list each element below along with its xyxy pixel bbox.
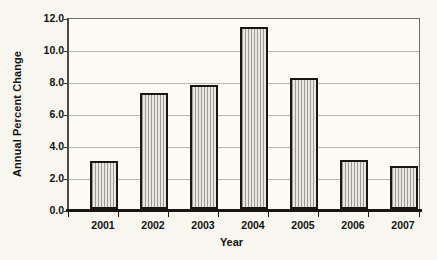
y-tick-label: 0.0 [22, 204, 64, 216]
x-tick-mark [168, 211, 169, 217]
x-tick-label-2004: 2004 [225, 219, 281, 231]
bar-2006 [340, 160, 368, 209]
y-tick-label: 6.0 [22, 108, 64, 120]
x-tick-mark [419, 211, 420, 217]
x-tick-label-2001: 2001 [75, 219, 131, 231]
bar-2005 [290, 78, 318, 209]
y-tick-label: 4.0 [22, 140, 64, 152]
x-tick-mark [268, 211, 269, 217]
x-tick-mark [68, 211, 69, 217]
x-tick-label-2006: 2006 [325, 219, 381, 231]
x-axis-title-wrap: Year [0, 236, 437, 248]
y-axis-tick-labels: 0.0 2.0 4.0 6.0 8.0 10.0 12.0 [20, 0, 64, 260]
bar-chart: Annual Percent Change 0.0 2.0 4.0 6.0 8.… [0, 0, 437, 260]
y-axis-line [67, 18, 69, 211]
x-tick-label-2005: 2005 [275, 219, 331, 231]
y-tick-label: 10.0 [22, 44, 64, 56]
bar-series [69, 19, 419, 209]
bar-2002 [140, 93, 168, 209]
bar-2004 [240, 27, 268, 209]
bar-2001 [90, 161, 118, 209]
x-tick-label-2007: 2007 [375, 219, 431, 231]
x-tick-mark [118, 211, 119, 217]
bar-2003 [190, 85, 218, 209]
y-tick-label: 2.0 [22, 172, 64, 184]
x-axis-title: Year [220, 236, 243, 248]
plot-area [68, 18, 420, 210]
x-tick-mark [218, 211, 219, 217]
x-tick-mark [318, 211, 319, 217]
y-tick-label: 12.0 [22, 12, 64, 24]
y-tick-label: 8.0 [22, 76, 64, 88]
x-tick-label-2003: 2003 [175, 219, 231, 231]
x-tick-mark [368, 211, 369, 217]
bar-2007 [390, 166, 418, 209]
x-tick-label-2002: 2002 [125, 219, 181, 231]
